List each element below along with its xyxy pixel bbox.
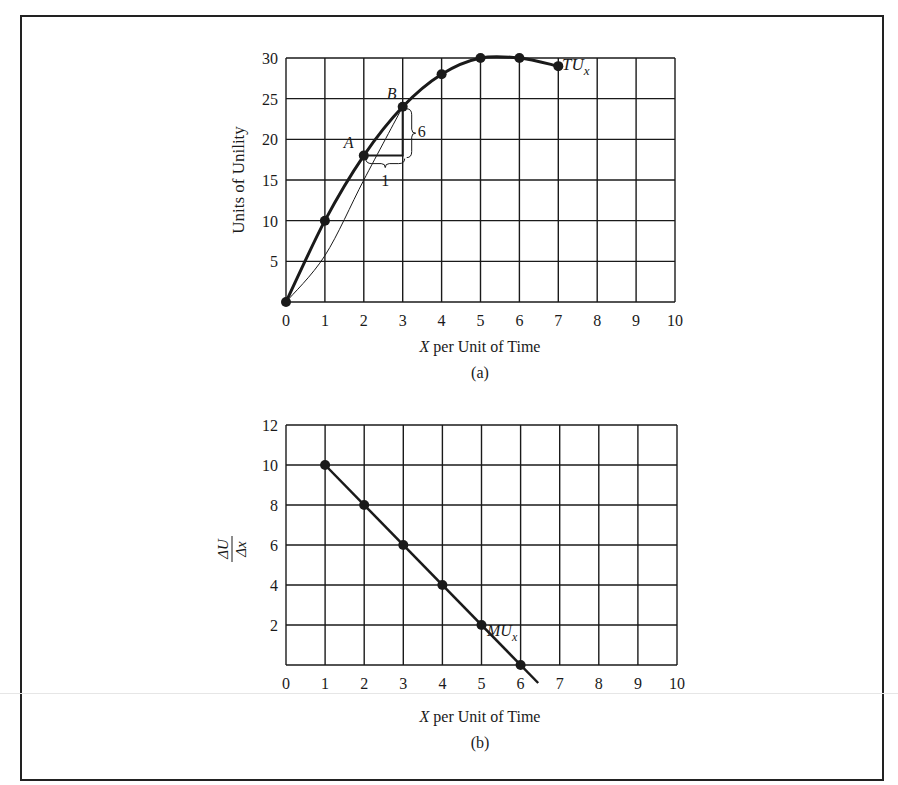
y-tick-label: 2 (270, 617, 278, 634)
tu-data-point (437, 69, 447, 79)
x-tick-label: 6 (515, 312, 523, 329)
run-label: 1 (381, 172, 389, 189)
x-tick-label: 9 (632, 312, 640, 329)
panel-a-grid (286, 58, 675, 302)
x-tick-label: 5 (478, 675, 486, 692)
mu-data-point (477, 620, 487, 630)
rise-label: 6 (418, 123, 426, 140)
mu-line (325, 465, 538, 683)
mu-data-point (398, 540, 408, 550)
panel-a-total-utility: 012345678910 51015202530 Units of Unilit… (229, 50, 683, 382)
x-tick-label: 7 (554, 312, 562, 329)
mu-data-point (437, 580, 447, 590)
panel-a-x-ticks: 012345678910 (282, 312, 683, 329)
x-tick-label: 1 (321, 675, 329, 692)
x-tick-label: 9 (634, 675, 642, 692)
y-tick-label: 30 (262, 50, 278, 67)
y-tick-label: 12 (262, 417, 278, 434)
mu-data-point (320, 460, 330, 470)
x-tick-label: 6 (517, 675, 525, 692)
x-tick-label: 3 (399, 675, 407, 692)
y-tick-label: 6 (270, 537, 278, 554)
x-tick-label: 5 (477, 312, 485, 329)
tu-curve (286, 56, 558, 302)
mu-data-point (359, 500, 369, 510)
x-tick-label: 10 (667, 312, 683, 329)
x-tick-label: 2 (360, 312, 368, 329)
panel-b-y-ticks: 24681012 (262, 417, 278, 634)
panel-b-marginal-utility: 012345678910 24681012 ΔU Δx X per Unit o… (215, 417, 685, 752)
y-tick-label: 8 (270, 497, 278, 514)
tu-data-point (514, 53, 524, 63)
panel-b-x-axis-label: X per Unit of Time (419, 708, 541, 726)
x-tick-label: 0 (282, 312, 290, 329)
panel-a-y-axis-label: Units of Unility (229, 126, 248, 234)
run-brace (366, 159, 405, 168)
tu-data-point (320, 216, 330, 226)
point-b-label: B (387, 85, 397, 102)
x-tick-label: 4 (438, 312, 446, 329)
x-tick-label: 0 (282, 675, 290, 692)
panel-a-y-ticks: 51015202530 (262, 50, 278, 270)
y-tick-label: 10 (262, 213, 278, 230)
y-tick-label: 15 (262, 172, 278, 189)
y-tick-label: 4 (270, 577, 278, 594)
rise-brace (407, 109, 416, 158)
y-tick-label: 20 (262, 131, 278, 148)
x-tick-label: 4 (438, 675, 446, 692)
figure-canvas: 012345678910 51015202530 Units of Unilit… (0, 0, 898, 785)
svg-text:ΔU: ΔU (215, 538, 231, 560)
tu-data-point (398, 102, 408, 112)
svg-text:Δx: Δx (233, 541, 249, 558)
x-tick-label: 10 (669, 675, 685, 692)
panel-a-x-axis-label: X per Unit of Time (419, 338, 541, 356)
tu-data-point (359, 151, 369, 161)
x-tick-label: 2 (360, 675, 368, 692)
mu-data-point (516, 660, 526, 670)
tu-data-point (281, 297, 291, 307)
panel-a-caption: (a) (471, 364, 489, 382)
y-tick-label: 5 (270, 253, 278, 270)
y-tick-label: 25 (262, 91, 278, 108)
tu-data-point (476, 53, 486, 63)
panel-b-x-ticks: 012345678910 (282, 675, 685, 692)
x-tick-label: 7 (556, 675, 564, 692)
x-tick-label: 8 (593, 312, 601, 329)
point-a-label: A (343, 134, 354, 151)
x-tick-label: 1 (321, 312, 329, 329)
panel-b-y-axis-label: ΔU Δx (215, 536, 249, 562)
panel-b-caption: (b) (471, 734, 490, 752)
y-tick-label: 10 (262, 457, 278, 474)
x-tick-label: 8 (595, 675, 603, 692)
x-tick-label: 3 (399, 312, 407, 329)
